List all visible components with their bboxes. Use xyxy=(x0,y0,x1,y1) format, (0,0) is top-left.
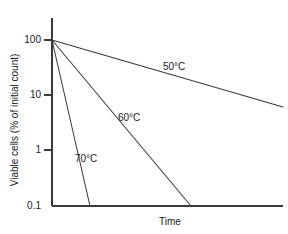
chart-figure: 100 10 1 0.1 50°C 60°C 70°C Time Viable … xyxy=(0,0,288,234)
semilog-survival-chart: 100 10 1 0.1 50°C 60°C 70°C Time Viable … xyxy=(0,0,288,234)
y-tick-label-1: 1 xyxy=(35,144,41,155)
y-axis-title: Viable cells (% of initial count) xyxy=(9,54,20,187)
x-axis-title: Time xyxy=(159,216,181,227)
series-label-60c: 60°C xyxy=(118,112,140,123)
series-line-50c xyxy=(52,40,283,107)
series-label-50c: 50°C xyxy=(163,61,185,72)
y-tick-label-100: 100 xyxy=(24,34,41,45)
series-label-70c: 70°C xyxy=(75,153,97,164)
y-tick-label-0-1: 0.1 xyxy=(27,200,41,211)
y-tick-label-10: 10 xyxy=(30,89,42,100)
series-line-70c xyxy=(52,40,90,206)
